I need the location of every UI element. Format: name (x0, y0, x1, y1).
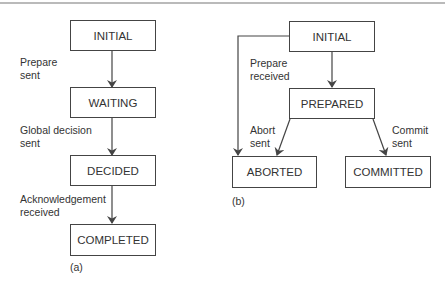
state-b-committed: COMMITTED (345, 156, 431, 188)
caption-a: (a) (70, 261, 83, 273)
state-a-waiting: WAITING (70, 87, 156, 118)
state-label: INITIAL (313, 31, 352, 43)
state-label: COMMITTED (353, 166, 423, 178)
state-label: WAITING (89, 97, 138, 109)
arrow-prepared-committed (373, 119, 386, 155)
state-label: PREPARED (301, 98, 363, 110)
state-label: INITIAL (94, 30, 133, 42)
state-a-decided: DECIDED (70, 155, 156, 186)
state-a-completed: COMPLETED (70, 224, 156, 256)
transition-label-acknowledgement-received: Acknowledgement received (20, 193, 106, 219)
transition-label-prepare-received: Prepare received (250, 57, 290, 83)
transition-label-prepare-sent: Prepare sent (20, 56, 57, 82)
state-label: DECIDED (87, 165, 139, 177)
arrow-prepared-aborted (277, 119, 290, 155)
state-b-initial: INITIAL (289, 21, 375, 52)
state-label: ABORTED (247, 166, 302, 178)
transition-label-abort-sent: Abort sent (250, 124, 275, 150)
state-b-aborted: ABORTED (232, 156, 317, 188)
state-b-prepared: PREPARED (289, 88, 375, 119)
transition-label-commit-sent: Commit sent (392, 124, 428, 150)
caption-b: (b) (232, 195, 245, 207)
state-label: COMPLETED (77, 234, 149, 246)
state-a-initial: INITIAL (70, 20, 156, 51)
transition-label-global-decision-sent: Global decision sent (20, 124, 92, 150)
diagram-canvas: INITIAL WAITING DECIDED COMPLETED Prepar… (0, 0, 445, 287)
